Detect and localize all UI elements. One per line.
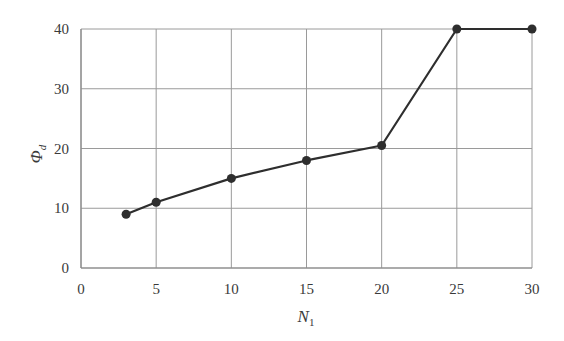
y-tick-label: 30	[54, 81, 69, 97]
data-point-marker	[152, 198, 161, 207]
y-tick-label: 40	[54, 21, 69, 37]
x-tick-label: 25	[449, 281, 464, 297]
data-point-marker	[377, 141, 386, 150]
x-axis-label: N1	[297, 307, 315, 328]
data-series	[122, 25, 537, 219]
data-point-marker	[302, 156, 311, 165]
x-tick-label: 0	[77, 281, 85, 297]
chart: 010203040 051015202530 N1 Φd	[0, 0, 564, 341]
y-tick-label: 20	[54, 141, 69, 157]
x-tick-label: 10	[224, 281, 239, 297]
data-point-marker	[227, 174, 236, 183]
line-chart: 010203040 051015202530 N1 Φd	[0, 0, 564, 341]
series-line	[126, 29, 532, 214]
y-axis-label: Φd	[27, 144, 48, 163]
data-point-marker	[452, 25, 461, 34]
x-axis-title: N1	[297, 307, 315, 328]
data-point-marker	[528, 25, 537, 34]
x-tick-label: 30	[525, 281, 540, 297]
y-tick-labels: 010203040	[54, 21, 69, 276]
data-point-marker	[122, 210, 131, 219]
x-tick-labels: 051015202530	[77, 281, 539, 297]
y-tick-label: 0	[62, 260, 70, 276]
y-tick-label: 10	[54, 200, 69, 216]
x-tick-label: 15	[299, 281, 314, 297]
grid	[81, 29, 532, 268]
x-tick-label: 5	[152, 281, 160, 297]
y-axis-title: Φd	[27, 144, 48, 163]
x-tick-label: 20	[374, 281, 389, 297]
